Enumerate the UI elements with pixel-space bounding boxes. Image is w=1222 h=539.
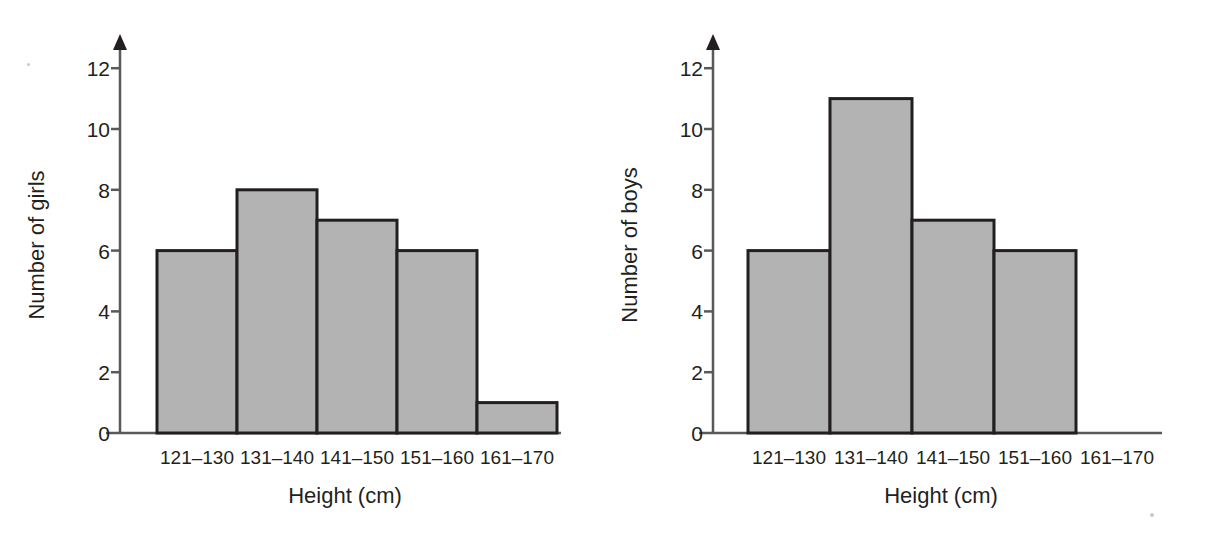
chart-panel-boys: 024681012121–130131–140141–150151–160161…: [611, 0, 1222, 539]
x-axis-category-label: 161–170: [1080, 447, 1154, 468]
y-axis-tick-label: 10: [680, 118, 703, 141]
y-axis-arrow-icon: [706, 34, 720, 50]
y-axis-tick-label: 0: [98, 422, 110, 445]
y-axis-tick-label: 12: [680, 57, 703, 80]
y-axis-tick-label: 4: [98, 300, 110, 323]
x-axis-category-label: 141–150: [320, 447, 394, 468]
scan-speck: [1150, 513, 1154, 517]
y-axis-tick-label: 10: [87, 118, 110, 141]
chart-panel-girls: 024681012121–130131–140141–150151–160161…: [0, 0, 611, 539]
histogram-bar: [317, 220, 397, 433]
histogram-bar: [237, 190, 317, 433]
x-axis-category-label: 131–140: [240, 447, 314, 468]
x-axis-category-label: 161–170: [480, 447, 554, 468]
x-axis-category-label: 151–160: [400, 447, 474, 468]
girls-histogram-plot: 024681012121–130131–140141–150151–160161…: [0, 0, 611, 539]
y-axis-tick-label: 8: [98, 179, 110, 202]
scan-speck: [27, 63, 30, 66]
histogram-bar: [830, 99, 912, 433]
x-axis-title: Height (cm): [288, 483, 402, 508]
x-axis-category-label: 121–130: [752, 447, 826, 468]
y-axis-tick-label: 8: [691, 179, 703, 202]
x-axis-category-label: 121–130: [160, 447, 234, 468]
y-axis-tick-label: 4: [691, 300, 703, 323]
histogram-bar: [157, 251, 237, 433]
y-axis-tick-label: 6: [691, 240, 703, 263]
y-axis-tick-label: 0: [691, 422, 703, 445]
histogram-bar: [397, 251, 477, 433]
boys-histogram-plot: 024681012121–130131–140141–150151–160161…: [611, 0, 1222, 539]
histogram-bar: [748, 251, 830, 433]
x-axis-category-label: 151–160: [998, 447, 1072, 468]
y-axis-tick-label: 12: [87, 57, 110, 80]
y-axis-arrow-icon: [113, 34, 127, 50]
y-axis-title: Number of boys: [617, 167, 642, 322]
y-axis-tick-label: 6: [98, 240, 110, 263]
x-axis-category-label: 141–150: [916, 447, 990, 468]
x-axis-category-label: 131–140: [834, 447, 908, 468]
x-axis-title: Height (cm): [884, 483, 998, 508]
y-axis-title: Number of girls: [24, 170, 49, 319]
y-axis-tick-label: 2: [691, 361, 703, 384]
figure-canvas: 024681012121–130131–140141–150151–160161…: [0, 0, 1222, 539]
histogram-bar: [477, 403, 557, 433]
histogram-bar: [994, 251, 1076, 433]
histogram-bar: [912, 220, 994, 433]
y-axis-tick-label: 2: [98, 361, 110, 384]
